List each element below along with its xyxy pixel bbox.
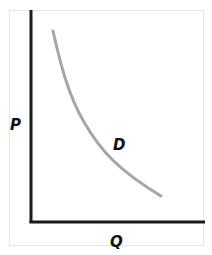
- y-axis-label: P: [10, 116, 21, 134]
- demand-curve: [53, 31, 161, 196]
- demand-diagram: P D Q: [0, 0, 212, 255]
- curve-label: D: [113, 136, 125, 154]
- x-axis-label: Q: [110, 233, 123, 251]
